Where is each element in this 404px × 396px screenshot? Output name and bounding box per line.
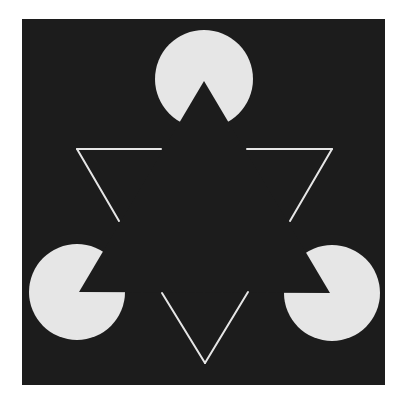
kanizsa-triangle-figure: [0, 0, 404, 396]
